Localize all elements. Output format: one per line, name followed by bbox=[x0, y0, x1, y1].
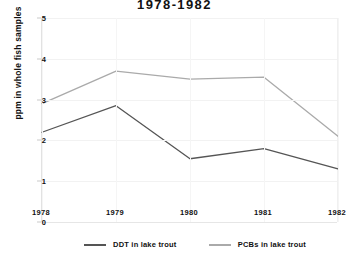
legend-label: PCBs in lake trout bbox=[238, 240, 306, 249]
gridline-vertical bbox=[338, 18, 339, 222]
y-axis-tick-mark bbox=[37, 58, 41, 59]
legend-item[interactable]: DDT in lake trout bbox=[84, 240, 176, 249]
chart-title: 1978-1982 bbox=[0, 0, 349, 12]
chart-container: 1978-1982 ppm in whole fish samples 0123… bbox=[0, 0, 349, 254]
y-axis-tick-mark bbox=[37, 222, 41, 223]
y-axis-tick-mark bbox=[37, 181, 41, 182]
y-axis-tick-label: 3 bbox=[20, 95, 46, 104]
x-axis-tick-label: 1982 bbox=[328, 208, 346, 217]
legend-swatch-icon bbox=[84, 244, 106, 246]
y-axis-tick-mark bbox=[37, 140, 41, 141]
y-axis-tick-mark bbox=[37, 99, 41, 100]
x-axis-tick-label: 1981 bbox=[254, 208, 272, 217]
legend-label: DDT in lake trout bbox=[113, 240, 176, 249]
x-axis-tick-label: 1978 bbox=[32, 208, 50, 217]
gridline-horizontal bbox=[42, 222, 337, 223]
gridline-vertical bbox=[190, 18, 191, 222]
y-axis-tick-label: 2 bbox=[20, 136, 46, 145]
x-axis-tick-label: 1979 bbox=[106, 208, 124, 217]
legend-swatch-icon bbox=[209, 244, 231, 246]
x-axis-tick-label: 1980 bbox=[180, 208, 198, 217]
gridline-vertical bbox=[264, 18, 265, 222]
legend-item[interactable]: PCBs in lake trout bbox=[209, 240, 306, 249]
y-axis-tick-label: 0 bbox=[20, 218, 46, 227]
chart-legend: DDT in lake troutPCBs in lake trout bbox=[41, 240, 338, 252]
gridline-vertical bbox=[116, 18, 117, 222]
y-axis-tick-label: 4 bbox=[20, 54, 46, 63]
y-axis-tick-mark bbox=[37, 18, 41, 19]
gridline-vertical bbox=[42, 18, 43, 222]
y-axis-tick-label: 5 bbox=[20, 14, 46, 23]
y-axis-tick-label: 1 bbox=[20, 177, 46, 186]
plot-area bbox=[41, 18, 338, 222]
